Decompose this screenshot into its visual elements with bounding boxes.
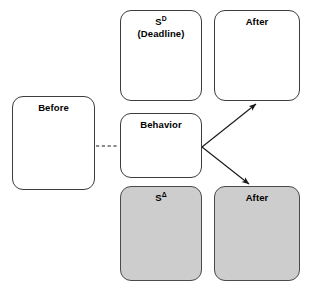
node-behavior-label: Behavior [140,114,181,131]
sd-symbol-superscript: D [162,15,167,22]
node-before-label: Before [38,97,69,114]
sdelta-symbol-superscript: Δ [162,191,167,198]
diagram-canvas: Before SD(Deadline) After Behavior SΔ Af… [0,0,316,290]
node-antecedent-delta-label: SΔ [155,187,166,204]
node-antecedent-deadline-label: SD(Deadline) [138,11,185,39]
connector-behavior-to-after-top [202,104,256,147]
node-after-bottom[interactable]: After [214,186,300,281]
node-before[interactable]: Before [12,96,95,190]
connector-behavior-to-after-bottom [202,147,249,184]
sd-symbol-subtitle: (Deadline) [138,28,185,39]
node-behavior[interactable]: Behavior [120,113,202,178]
node-after-bottom-label: After [246,187,269,204]
node-after-top[interactable]: After [214,10,300,101]
node-antecedent-delta[interactable]: SΔ [120,186,202,281]
node-antecedent-deadline[interactable]: SD(Deadline) [120,10,202,101]
node-after-top-label: After [246,11,269,28]
